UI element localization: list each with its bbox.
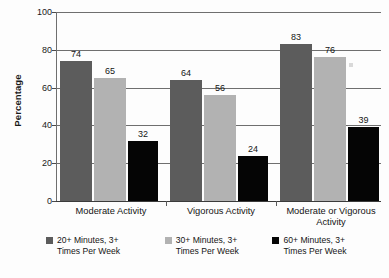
bar-value-label: 24 (248, 144, 258, 154)
bar-value-label: 76 (325, 45, 335, 55)
legend-item-label: 20+ Minutes, 3+ Times Per Week (57, 235, 120, 257)
x-axis-label-line1: Moderate or Vigorous (276, 206, 386, 217)
y-axis-tick-0 (52, 201, 56, 202)
bar-chart: Percentage 100 80 60 40 20 0 74 65 (0, 0, 389, 278)
legend-item-30min[interactable]: 30+ Minutes, 3+ Times Per Week (165, 235, 273, 257)
bar-value-label: 83 (291, 32, 301, 42)
bar-modvig-30min[interactable]: 76 (314, 57, 346, 201)
bar-value-label: 56 (215, 83, 225, 93)
plot-area: 74 65 32 64 56 24 83 (56, 12, 381, 201)
bar-moderate-30min[interactable]: 65 (94, 78, 126, 201)
x-axis-label-moderate-or-vigorous-activity: Moderate or Vigorous Activity (276, 206, 386, 228)
bar-moderate-20min[interactable]: 74 (60, 61, 92, 201)
bar-value-label: 74 (71, 49, 81, 59)
legend-swatch-icon (165, 237, 172, 244)
y-tick-label-20: 20 (12, 158, 52, 168)
legend-item-label: 60+ Minutes, 3+ Times Per Week (283, 235, 346, 257)
y-tick-label-60: 60 (12, 83, 52, 93)
legend-swatch-icon (272, 237, 279, 244)
legend-item-60min[interactable]: 60+ Minutes, 3+ Times Per Week (272, 235, 382, 257)
y-axis-tick-labels: 100 80 60 40 20 0 (8, 12, 52, 201)
x-axis-label-line2: Activity (276, 217, 386, 228)
y-tick-label-80: 80 (12, 45, 52, 55)
y-tick-label-0: 0 (12, 196, 52, 206)
bar-group-vigorous-activity: 64 56 24 (166, 12, 270, 201)
scan-artifact (349, 63, 353, 67)
bar-value-label: 32 (138, 129, 148, 139)
bar-value-label: 39 (358, 115, 368, 125)
x-axis-label-moderate-activity: Moderate Activity (56, 206, 166, 217)
legend-swatch-icon (46, 237, 53, 244)
bar-vigorous-30min[interactable]: 56 (204, 95, 236, 201)
bar-vigorous-60min[interactable]: 24 (238, 156, 268, 201)
x-axis-label-line1: Moderate Activity (56, 206, 166, 217)
bar-value-label: 64 (181, 68, 191, 78)
legend-item-label: 30+ Minutes, 3+ Times Per Week (176, 235, 239, 257)
y-tick-label-100: 100 (12, 7, 52, 17)
legend: 20+ Minutes, 3+ Times Per Week 30+ Minut… (46, 235, 382, 257)
bar-vigorous-20min[interactable]: 64 (170, 80, 202, 201)
legend-item-20min[interactable]: 20+ Minutes, 3+ Times Per Week (46, 235, 165, 257)
x-axis-label-line1: Vigorous Activity (166, 206, 276, 217)
bar-modvig-20min[interactable]: 83 (280, 44, 312, 201)
y-tick-label-40: 40 (12, 120, 52, 130)
gridline-baseline-0 (56, 201, 381, 202)
bar-group-moderate-or-vigorous-activity: 83 76 39 (276, 12, 381, 201)
bar-value-label: 65 (105, 66, 115, 76)
bar-group-moderate-activity: 74 65 32 (56, 12, 160, 201)
bar-moderate-60min[interactable]: 32 (128, 141, 158, 202)
x-axis-label-vigorous-activity: Vigorous Activity (166, 206, 276, 217)
bar-modvig-60min[interactable]: 39 (348, 127, 379, 201)
